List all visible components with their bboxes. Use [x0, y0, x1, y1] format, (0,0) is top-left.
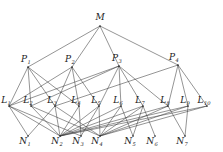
node-label-n4: N4: [90, 136, 103, 147]
edge-l6-n2: [60, 106, 121, 136]
node-label-l2: L2: [22, 95, 33, 106]
network-diagram: MP1P2P3P4L1L2L3L4L5L6L7L8L9L10N1N2N3N4N5…: [0, 0, 223, 152]
edge-l1-n1: [9, 106, 28, 136]
node-point-n7[interactable]: [184, 135, 186, 137]
node-label-l4: L4: [70, 95, 81, 106]
node-point-n2[interactable]: [59, 135, 61, 137]
node-label-l8: L8: [159, 95, 170, 106]
node-point-n5[interactable]: [132, 135, 134, 137]
edge-m-p2: [72, 26, 100, 67]
node-label-n2: N2: [50, 136, 63, 147]
node-label-p2: P2: [64, 54, 75, 65]
node-label-n6: N6: [145, 136, 158, 147]
node-point-p1[interactable]: [27, 66, 29, 68]
node-label-l1: L1: [0, 95, 11, 106]
edge-m-p1: [28, 26, 100, 67]
edges-p-to-l: [9, 65, 207, 106]
node-label-l6: L6: [112, 95, 123, 106]
node-label-p3: P3: [111, 53, 122, 64]
node-label-n7: N7: [175, 136, 188, 147]
node-point-n3[interactable]: [80, 135, 82, 137]
node-label-p4: P4: [168, 52, 179, 63]
edges-root-to-p: [28, 26, 178, 67]
edge-l1-n2: [9, 106, 60, 136]
edge-l8-n7: [168, 106, 185, 136]
edge-l10-n2: [60, 106, 207, 136]
node-point-p4[interactable]: [177, 64, 179, 66]
node-label-l5: L5: [90, 95, 101, 106]
node-point-n4[interactable]: [99, 135, 101, 137]
edge-l7-n4: [100, 106, 143, 136]
node-label-n3: N3: [71, 136, 84, 147]
edge-l5-n4: [99, 106, 100, 136]
node-point-m[interactable]: [99, 25, 101, 27]
edge-l7-n2: [60, 106, 143, 136]
node-point-n6[interactable]: [154, 135, 156, 137]
edge-l10-n4: [100, 106, 207, 136]
node-label-p1: P1: [20, 54, 31, 65]
edge-p2-l3: [55, 67, 72, 106]
node-label-l3: L3: [46, 95, 57, 106]
node-point-n1[interactable]: [27, 135, 29, 137]
edge-l1-n3: [9, 106, 81, 136]
graph-canvas: MP1P2P3P4L1L2L3L4L5L6L7L8L9L10N1N2N3N4N5…: [0, 0, 223, 152]
node-label-n1: N1: [18, 136, 31, 147]
node-points: [8, 25, 208, 137]
node-label-l10: L10: [197, 95, 212, 106]
edges-l-to-n: [9, 106, 207, 136]
node-point-p2[interactable]: [71, 66, 73, 68]
node-label-m: M: [94, 12, 105, 22]
node-point-p3[interactable]: [118, 65, 120, 67]
node-label-l7: L7: [134, 95, 145, 106]
node-label-l9: L9: [179, 95, 190, 106]
node-label-n5: N5: [123, 136, 136, 147]
